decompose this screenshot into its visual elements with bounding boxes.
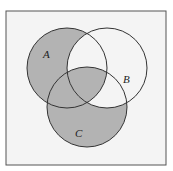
venn-diagram: A B C (0, 0, 173, 171)
label-b: B (123, 73, 130, 85)
label-c: C (75, 127, 83, 139)
label-a: A (42, 48, 50, 60)
